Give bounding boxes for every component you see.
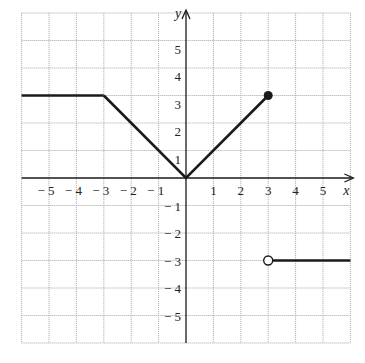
y-tick-label: 1 [175,152,182,167]
x-tick-label: 1 [210,183,217,198]
y-tick-label: − 1 [164,199,181,214]
y-tick-label: 3 [175,97,182,112]
x-tick-label: 3 [265,183,272,198]
y-tick-label: − 5 [164,309,181,324]
x-tick-label: − 2 [120,183,137,198]
x-tick-label: 2 [238,183,245,198]
open-endpoint-circle-icon [264,256,273,265]
y-tick-label: − 2 [164,226,181,241]
x-tick-label: 5 [320,183,327,198]
y-tick-label: 2 [175,124,182,139]
x-axis-label: x [342,183,350,198]
y-tick-label: 5 [175,42,182,57]
y-tick-label: − 4 [164,281,182,296]
x-tick-label: − 5 [37,183,54,198]
y-axis-label: y [173,6,182,21]
piecewise-function-graph: − 5− 4− 3− 2− 11234554321− 1− 2− 3− 4− 5… [0,0,365,363]
y-tick-label: − 3 [164,254,181,269]
x-tick-label: 4 [292,183,299,198]
tick-labels: − 5− 4− 3− 2− 11234554321− 1− 2− 3− 4− 5… [37,6,350,324]
y-tick-label: 4 [175,69,182,84]
closed-endpoint-dot-icon [264,91,273,100]
x-tick-label: − 1 [147,183,164,198]
x-tick-label: − 3 [92,183,109,198]
x-tick-label: − 4 [65,183,83,198]
